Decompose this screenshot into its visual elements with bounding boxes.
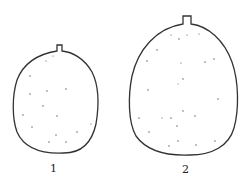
figure-canvas <box>0 0 250 189</box>
fruit-1-dots <box>22 55 91 142</box>
fruit-2-drawing <box>129 16 237 155</box>
fruit-2-dots <box>138 33 218 146</box>
fruit-1-label: 1 <box>50 162 57 175</box>
fruit-1-drawing <box>13 45 98 153</box>
fruit-2-label: 2 <box>182 163 189 176</box>
